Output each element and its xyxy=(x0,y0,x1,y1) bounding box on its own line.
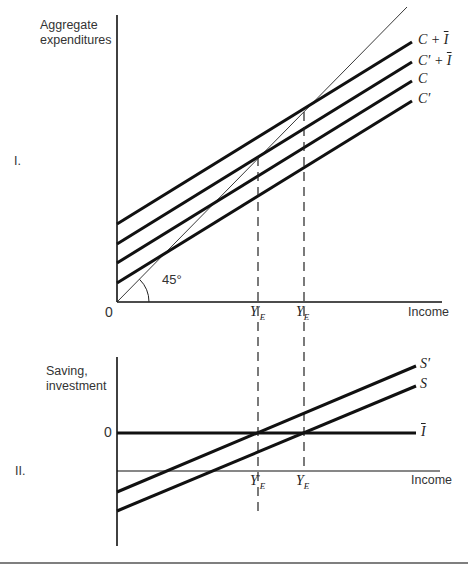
y-main: Y xyxy=(250,473,258,488)
e-sub: E xyxy=(304,481,310,491)
c-plus-label: C + xyxy=(418,32,444,47)
c-prime-plus-label: C′ + xyxy=(418,53,447,68)
panel-1-x-axis-label: Income xyxy=(408,305,449,320)
i-bar-label: I xyxy=(444,32,449,47)
s-prime-label: S′ xyxy=(420,356,430,372)
angle-label: 45° xyxy=(162,272,182,287)
i-bar-label: I xyxy=(447,53,452,68)
c-prime-plus-i-line xyxy=(117,62,412,244)
panel-2-x-axis-label: Income xyxy=(411,473,452,488)
panel-2-label: II. xyxy=(15,464,25,479)
y-label-line-2: expenditures xyxy=(40,33,112,48)
c-prime-line xyxy=(117,101,412,283)
panel-2-y-axis-label: Saving, investment xyxy=(46,364,106,394)
panel-2-ye-prime-label: Y′E xyxy=(250,473,265,491)
c-prime-plus-i-label: C′ + I xyxy=(418,53,452,69)
i-bar-label: I xyxy=(421,424,426,440)
panel-1-origin-label: 0 xyxy=(105,305,113,320)
panel-1-ye-label: YE xyxy=(296,304,309,322)
c-prime-label: C′ xyxy=(418,91,430,107)
e-sub: E xyxy=(260,312,266,322)
s-prime-line xyxy=(117,366,416,492)
panel-2-zero-label: 0 xyxy=(104,425,112,440)
y-main: Y xyxy=(296,304,304,319)
keynesian-cross-diagram xyxy=(0,0,468,566)
y-label-line-2: investment xyxy=(46,379,106,394)
s-label: S xyxy=(420,376,427,392)
panel-1-y-axis-label: Aggregate expenditures xyxy=(40,18,112,48)
y-label-line-1: Aggregate xyxy=(40,18,112,33)
e-sub: E xyxy=(260,481,266,491)
panel-1-ye-prime-label: Y′E xyxy=(250,304,265,322)
y-label-line-1: Saving, xyxy=(46,364,106,379)
c-plus-i-label: C + I xyxy=(418,32,448,48)
s-line xyxy=(117,386,416,511)
e-sub: E xyxy=(304,312,310,322)
y-main: Y xyxy=(296,473,304,488)
y-main: Y xyxy=(250,304,258,319)
panel-1-label: I. xyxy=(14,154,21,169)
c-plus-i-line xyxy=(117,42,412,224)
45-degree-arc xyxy=(140,279,149,302)
c-line xyxy=(117,81,412,263)
c-label: C xyxy=(418,71,427,87)
panel-2-ye-label: YE xyxy=(296,473,309,491)
